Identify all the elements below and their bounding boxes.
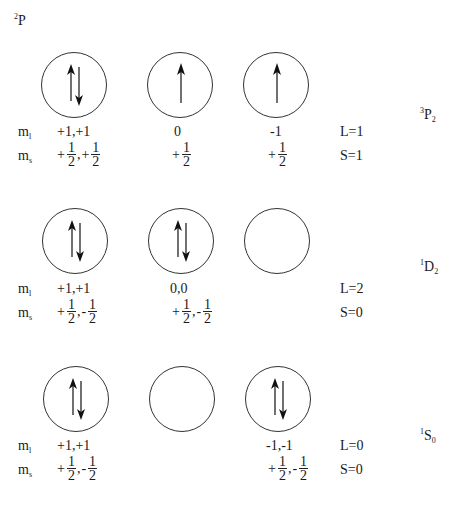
term-symbol: 3P2 <box>420 106 436 124</box>
ml-value: +1,+1 <box>57 281 90 297</box>
L-value: L=0 <box>340 438 363 454</box>
ms-value: +12 <box>268 141 287 168</box>
ms-label: ms <box>18 462 32 479</box>
L-value: L=1 <box>340 124 363 140</box>
ml-label: ml <box>18 281 31 298</box>
spin-up-arrow-icon <box>148 53 214 119</box>
orbital-box-empty <box>149 366 215 432</box>
ms-value: +12 <box>172 141 191 168</box>
spin-up-down-arrows-icon <box>42 53 108 119</box>
ml-value: -1,-1 <box>266 438 293 454</box>
ms-value: +12,-12 <box>57 298 97 325</box>
ml-label: ml <box>18 438 31 455</box>
orbital-box-up-down <box>41 52 107 118</box>
spin-up-down-arrows-icon <box>149 209 215 275</box>
term-symbol: 1D2 <box>420 258 438 276</box>
orbital-box-up-down <box>43 366 109 432</box>
orbital-box-up-down <box>42 208 108 274</box>
orbital-box-up <box>147 52 213 118</box>
ml-label: ml <box>18 124 31 141</box>
S-value: S=0 <box>340 462 363 478</box>
S-value: S=1 <box>340 148 363 164</box>
term-symbol: 1S0 <box>420 427 436 445</box>
config-letter: P <box>18 13 26 28</box>
ms-label: ms <box>18 148 32 165</box>
configuration-label: 2P <box>14 12 26 29</box>
ml-value: +1,+1 <box>57 124 90 140</box>
L-value: L=2 <box>340 281 363 297</box>
ms-value: +12,+12 <box>57 141 100 168</box>
spin-up-down-arrows-icon <box>246 367 312 433</box>
ml-value: 0,0 <box>170 281 188 297</box>
spin-up-arrow-icon <box>244 53 310 119</box>
orbital-box-empty <box>244 208 310 274</box>
orbital-box-up-down <box>245 366 311 432</box>
ms-value: +12,-12 <box>57 455 97 482</box>
orbital-box-up-down <box>148 208 214 274</box>
S-value: S=0 <box>340 305 363 321</box>
spin-up-down-arrows-icon <box>43 209 109 275</box>
ml-value: -1 <box>270 124 282 140</box>
ml-value: +1,+1 <box>57 438 90 454</box>
ms-value: +12,-12 <box>268 455 308 482</box>
ms-label: ms <box>18 305 32 322</box>
orbital-box-up <box>243 52 309 118</box>
ml-value: 0 <box>174 124 181 140</box>
ms-value: +12,-12 <box>172 298 212 325</box>
spin-up-down-arrows-icon <box>44 367 110 433</box>
